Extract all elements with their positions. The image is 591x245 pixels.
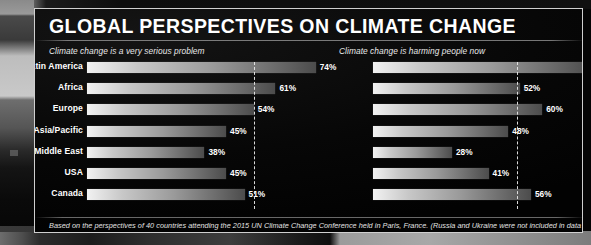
category-label: Canada (34, 188, 83, 198)
chart-row: Europe54% (35, 104, 335, 115)
chart-row: 52% (335, 83, 583, 94)
infographic-poster: GLOBAL PERSPECTIVES ON CLIMATE CHANGE Cl… (0, 0, 591, 245)
global-median-label: Global median 51% (484, 230, 550, 233)
chart-row: Latin America74% (35, 62, 335, 73)
chart-right-subtitle: Climate change is harming people now (339, 46, 485, 56)
bar-value-label: 45% (230, 126, 247, 137)
bar-africa (87, 83, 275, 94)
bar-usa (373, 168, 489, 179)
chart-row: USA45% (35, 168, 335, 179)
category-label: USA (34, 167, 83, 177)
global-median-line (517, 62, 518, 209)
chart-row: 28% (335, 147, 583, 158)
category-label: Asia/Pacific (34, 125, 83, 135)
footer-divider (35, 217, 583, 218)
bar-europe (87, 104, 254, 115)
bar-latin-america (87, 62, 316, 73)
bar-asia-pacific (373, 126, 508, 137)
bar-canada (87, 189, 245, 200)
bar-latin-america (373, 62, 583, 73)
chart-row: 56% (335, 189, 583, 200)
bar-value-label: 74% (320, 62, 337, 73)
bar-value-label: 60% (546, 104, 563, 115)
poster-panel: GLOBAL PERSPECTIVES ON CLIMATE CHANGE Cl… (34, 8, 583, 233)
bar-value-label: 51% (249, 189, 266, 200)
chart-row: Asia/Pacific45% (35, 126, 335, 137)
chart-row: 60% (335, 104, 583, 115)
global-median-line (254, 62, 255, 209)
bar-asia-pacific (87, 126, 226, 137)
bar-value-label: 52% (524, 83, 541, 94)
bar-usa (87, 168, 226, 179)
chart-very-serious-problem: Climate change is a very serious problem… (35, 40, 335, 220)
bar-value-label: 61% (279, 83, 296, 94)
chart-right-plot-area: 77%52%60%48%28%41%56%Global median 51% (335, 62, 583, 209)
category-label: Middle East (34, 146, 83, 156)
bar-value-label: 54% (258, 104, 275, 115)
bar-value-label: 41% (493, 168, 510, 179)
photo-edge-bottom (0, 231, 591, 245)
chart-left-subtitle: Climate change is a very serious problem (49, 46, 205, 56)
chart-row: 77% (335, 62, 583, 73)
chart-row: Middle East38% (35, 147, 335, 158)
category-label: Europe (34, 103, 83, 113)
chart-row: 41% (335, 168, 583, 179)
chart-row: 48% (335, 126, 583, 137)
category-label: Africa (34, 82, 83, 92)
bar-value-label: 45% (230, 168, 247, 179)
bar-value-label: 38% (208, 147, 225, 158)
source-footnote: Based on the perspectives of 40 countrie… (49, 221, 583, 230)
bar-middle-east (87, 147, 204, 158)
bar-africa (373, 83, 520, 94)
chart-left-plot-area: Latin America74%Africa61%Europe54%Asia/P… (35, 62, 335, 209)
bar-middle-east (373, 147, 452, 158)
chart-harming-people-now: Climate change is harming people now 77%… (335, 40, 583, 220)
category-label: Latin America (34, 61, 83, 71)
chart-row: Africa61% (35, 83, 335, 94)
bar-value-label: 56% (535, 189, 552, 200)
bar-canada (373, 189, 531, 200)
poster-title: GLOBAL PERSPECTIVES ON CLIMATE CHANGE (49, 15, 516, 38)
photo-edge-left (0, 0, 34, 245)
chart-row: Canada51% (35, 189, 335, 200)
bar-value-label: 48% (512, 126, 529, 137)
global-median-label: Global median 54% (221, 230, 287, 233)
bar-value-label: 28% (456, 147, 473, 158)
